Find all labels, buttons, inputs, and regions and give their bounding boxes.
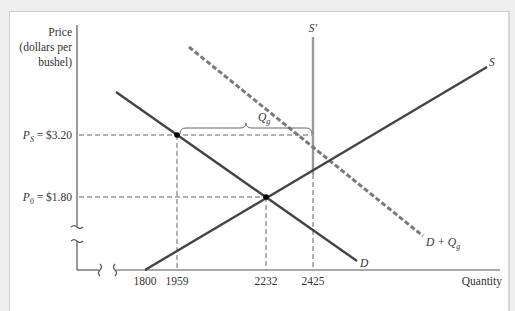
x-axis-label: Quantity	[462, 275, 502, 288]
x-tick-2232: 2232	[255, 275, 278, 287]
supply-label: S	[489, 56, 495, 68]
vertical-supply-label: S′	[309, 22, 318, 34]
ps-demand-point	[174, 132, 180, 138]
qg-label: Qg	[258, 111, 270, 126]
y-axis-label-line-2: (dollars per	[19, 41, 72, 54]
demand-curve	[116, 92, 357, 261]
qg-brace	[180, 123, 312, 134]
demand-label: D	[359, 257, 369, 269]
demand-plus-qg-curve	[189, 47, 423, 236]
y-tick-p0: P0 = $1.80	[22, 191, 72, 206]
equilibrium-point	[263, 194, 269, 200]
y-tick-ps: PS = $3.20	[22, 129, 72, 144]
demand-plus-qg-label: D + Qg	[425, 236, 460, 251]
x-tick-1959: 1959	[166, 275, 189, 287]
x-tick-2425: 2425	[302, 275, 325, 287]
guide-lines	[79, 135, 313, 270]
x-tick-1800: 1800	[134, 275, 157, 287]
y-axis-label-line-3: bushel)	[38, 56, 72, 69]
y-axis-label-line-1: Price	[48, 26, 72, 38]
y-axis	[71, 25, 83, 270]
